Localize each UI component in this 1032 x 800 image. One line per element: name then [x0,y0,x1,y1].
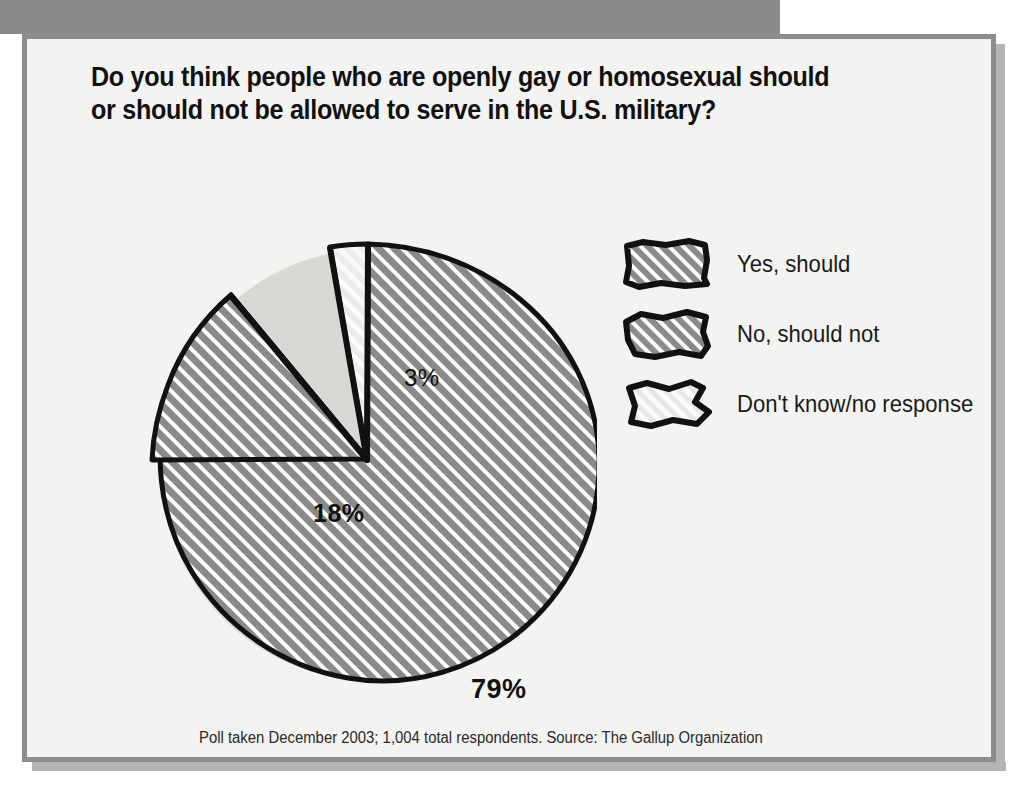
pie-chart-svg [127,204,597,704]
slice-label-yes: 79% [471,674,527,705]
light-hatched-swatch-icon [621,378,713,430]
chart-card: Do you think people who are openly gay o… [22,34,996,762]
slice-label-no: 18% [313,499,365,528]
legend-label-no: No, should not [737,320,879,348]
dark-hatched-swatch-icon [621,238,713,290]
legend-item-dontknow: Don't know/no response [621,369,1001,439]
legend-label-dontknow: Don't know/no response [737,390,973,418]
pie-divider-top [367,246,368,460]
mid-hatched-swatch-icon [621,308,713,360]
pie-chart: 3% 18% 79% [127,204,597,704]
legend-item-yes: Yes, should [621,229,1001,299]
slice-label-dontknow: 3% [404,364,440,392]
chart-footnote: Poll taken December 2003; 1,004 total re… [199,729,887,747]
chart-legend: Yes, should No, should not Don't know/no… [621,229,1001,439]
legend-item-no: No, should not [621,299,1001,369]
page-title: Do you think people who are openly gay o… [91,61,835,127]
card-shadow-bottom [32,762,1006,771]
top-grey-band [0,0,780,34]
legend-label-yes: Yes, should [737,250,850,278]
